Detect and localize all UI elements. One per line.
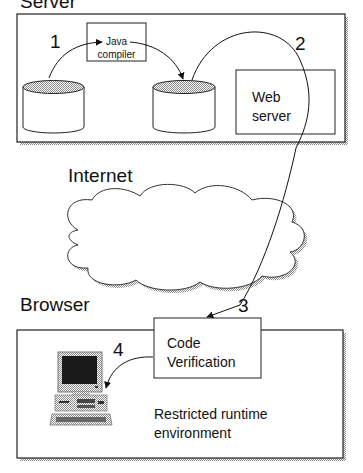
- web-server-line-2: server: [252, 107, 291, 126]
- bytecode-database-icon: [153, 81, 215, 133]
- java-compiler-line-1: Java: [87, 35, 146, 48]
- server-section-label: Server: [20, 0, 76, 11]
- code-verification-label: Code Verification: [167, 334, 235, 372]
- runtime-environment-label: Restricted runtime environment: [154, 405, 268, 443]
- internet-section-label: Internet: [68, 166, 132, 185]
- java-compiler-line-2: compiler: [87, 48, 146, 61]
- source-database-icon: [23, 81, 84, 133]
- browser-section-label: Browser: [20, 295, 90, 314]
- code-verification-line-1: Code: [167, 334, 235, 353]
- step-2-label: 2: [295, 34, 306, 53]
- step-1-label: 1: [50, 32, 61, 51]
- step-3-label: 3: [238, 296, 249, 315]
- runtime-line-2: environment: [154, 424, 268, 443]
- runtime-line-1: Restricted runtime: [154, 405, 268, 424]
- web-server-line-1: Web: [252, 88, 291, 107]
- code-verification-line-2: Verification: [167, 353, 235, 372]
- step-4-label: 4: [113, 340, 124, 359]
- diagram-canvas: [0, 0, 363, 473]
- internet-cloud: [68, 184, 308, 293]
- web-server-label: Web server: [252, 88, 291, 126]
- java-compiler-label: Java compiler: [87, 35, 146, 61]
